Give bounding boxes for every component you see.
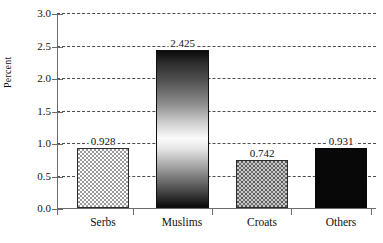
x-tick-mark bbox=[291, 208, 292, 215]
gridline-0-0: 0.0 bbox=[57, 208, 376, 209]
y-tick-label: 2.5 bbox=[37, 40, 51, 52]
y-axis-title: Percent bbox=[2, 74, 13, 88]
y-tick-label: 2.0 bbox=[37, 72, 51, 84]
y-tick-mark bbox=[52, 112, 63, 113]
bar-value-label: 0.928 bbox=[89, 135, 118, 147]
gridline-2-5: 2.5 bbox=[57, 46, 376, 47]
bar-others: 0.931 bbox=[315, 148, 367, 209]
x-axis-label-croats: Croats bbox=[247, 216, 277, 228]
y-tick-label: 1.0 bbox=[37, 137, 51, 149]
x-axis-label-others: Others bbox=[326, 216, 357, 228]
gridline-3-0: 3.0 bbox=[57, 13, 376, 14]
y-tick-label: 3.0 bbox=[37, 7, 51, 19]
x-tick-mark bbox=[212, 208, 213, 215]
y-tick-mark bbox=[52, 79, 63, 80]
x-tick-mark bbox=[371, 208, 372, 215]
bar-serbs: 0.928 bbox=[77, 148, 129, 208]
bar-value-label: 2.425 bbox=[168, 37, 197, 49]
plot-area: 3.0 2.5 2.0 1.5 1.0 0.5 0.0 0.928 bbox=[57, 13, 376, 208]
bar-muslims: 2.425 bbox=[156, 50, 209, 208]
y-tick-label: 0.0 bbox=[37, 202, 51, 214]
bar-chart: Percent 3.0 2.5 2.0 1.5 1.0 bbox=[0, 0, 383, 243]
y-tick-mark bbox=[52, 209, 63, 210]
gridline-1-5: 1.5 bbox=[57, 111, 376, 112]
y-tick-mark bbox=[52, 14, 63, 15]
x-tick-mark bbox=[133, 208, 134, 215]
bar-croats: 0.742 bbox=[236, 160, 288, 208]
y-tick-mark bbox=[52, 144, 63, 145]
bar-value-label: 0.742 bbox=[248, 147, 277, 159]
bar-value-label: 0.931 bbox=[327, 135, 356, 147]
y-tick-label: 0.5 bbox=[37, 170, 51, 182]
x-axis-label-muslims: Muslims bbox=[162, 216, 202, 228]
y-tick-mark bbox=[52, 47, 63, 48]
gridline-2-0: 2.0 bbox=[57, 78, 376, 79]
x-axis-label-serbs: Serbs bbox=[90, 216, 116, 228]
y-tick-label: 1.5 bbox=[37, 105, 51, 117]
y-tick-mark bbox=[52, 177, 63, 178]
